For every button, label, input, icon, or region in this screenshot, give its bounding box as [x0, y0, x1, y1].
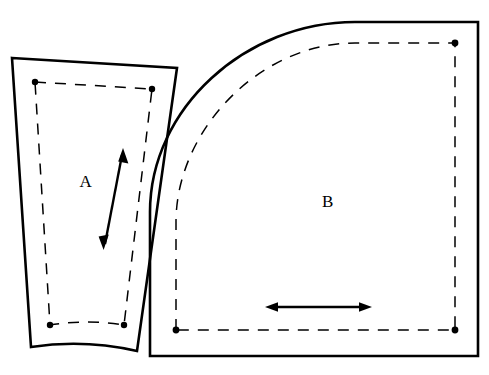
piece-a-seam-line — [35, 82, 152, 325]
piece-a-grain-arrow-head-up — [118, 148, 128, 163]
piece-b-grain-arrow-head-left — [265, 302, 278, 312]
diagram-canvas: A B — [0, 0, 489, 375]
piece-b-notch-dot-bottom-right — [452, 327, 459, 334]
pattern-piece-a[interactable]: A — [12, 58, 177, 351]
piece-a-cutting-line — [12, 58, 177, 351]
piece-a-notch-dot-top-left — [32, 79, 38, 85]
piece-b-label: B — [322, 192, 334, 211]
piece-a-label: A — [80, 172, 93, 191]
piece-a-notch-dot-top-right — [149, 86, 155, 92]
piece-a-grain-arrow — [99, 148, 129, 250]
piece-a-notch-dot-bottom-right — [121, 322, 127, 328]
piece-a-grain-arrow-shaft — [105, 155, 122, 244]
piece-b-grain-arrow-head-right — [359, 302, 372, 312]
pattern-piece-b[interactable]: B — [150, 22, 478, 356]
pattern-diagram: A B — [0, 0, 489, 375]
piece-b-grain-arrow — [265, 302, 372, 312]
piece-b-seam-line — [176, 43, 455, 330]
piece-b-notch-dot-top-right — [452, 40, 459, 47]
piece-b-notch-dot-bottom-left — [173, 327, 180, 334]
piece-a-notch-dot-bottom-left — [47, 322, 53, 328]
piece-a-grain-arrow-head-down — [99, 235, 109, 250]
